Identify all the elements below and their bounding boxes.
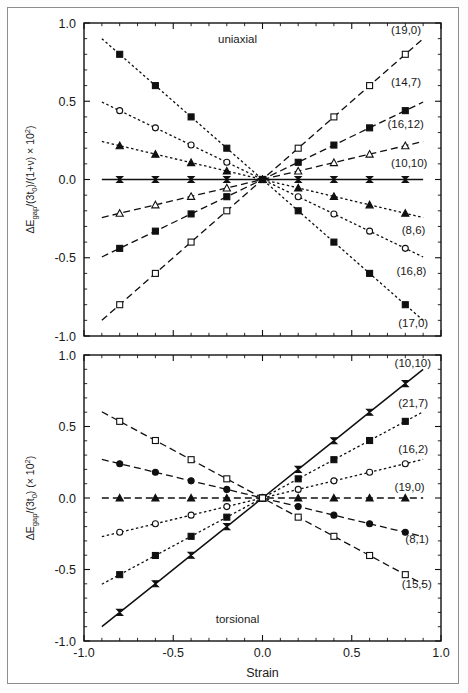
figure-root: (19,0)(14,7)(16,12)(10,10)(8,6)(16,8)(17… — [0, 0, 468, 693]
marker-bowtie — [367, 409, 373, 415]
series-label-(21,7): (21,7) — [398, 397, 428, 409]
marker-open-square — [188, 239, 194, 245]
marker-filled-square — [152, 83, 158, 89]
marker-bowtie — [224, 524, 230, 530]
marker-open-circle — [117, 108, 123, 114]
marker-open-square — [152, 438, 158, 444]
series-label-(17,0): (17,0) — [398, 317, 428, 329]
marker-filled-square — [367, 438, 373, 444]
marker-open-circle — [152, 125, 158, 131]
marker-open-square — [402, 572, 408, 578]
x-tick-label: -1.0 — [73, 646, 95, 660]
marker-open-square — [224, 208, 230, 214]
marker-open-square — [331, 533, 337, 539]
y-tick-label: 0.5 — [59, 420, 76, 434]
y-axis-title-part: /(3t — [24, 498, 36, 513]
marker-open-circle — [295, 194, 301, 200]
series-label-(10,10): (10,10) — [395, 357, 432, 369]
series-label-(15,5): (15,5) — [402, 578, 432, 590]
series-label-(8,1): (8,1) — [405, 533, 429, 545]
marker-bowtie — [402, 381, 408, 387]
marker-bowtie — [188, 552, 194, 558]
marker-filled-square — [117, 572, 123, 578]
marker-bowtie — [117, 609, 123, 615]
marker-filled-square — [367, 125, 373, 131]
y-axis-title-part: )/(1+ν) × 10 — [24, 133, 36, 187]
y-axis-title-part: gap — [30, 207, 39, 220]
marker-open-circle — [331, 478, 337, 484]
marker-filled-square — [188, 114, 194, 120]
marker-filled-square — [117, 51, 123, 57]
y-tick-label: 1.0 — [59, 17, 76, 31]
marker-open-circle — [295, 486, 301, 492]
y-axis-title: ΔEgap/(3t0)/(1+ν) × 102) — [23, 125, 39, 233]
y-tick-label: 0.5 — [59, 95, 76, 109]
marker-open-square — [295, 145, 301, 151]
y-axis-title-part: ΔE — [24, 220, 36, 234]
marker-filled-square — [331, 457, 337, 463]
marker-filled-circle — [367, 521, 373, 527]
marker-filled-circle — [331, 512, 337, 518]
marker-filled-circle — [224, 486, 230, 492]
marker-filled-square — [295, 476, 301, 482]
marker-open-square — [224, 476, 230, 482]
y-axis-title: ΔEgap/(3t0) (× 102) — [23, 456, 39, 540]
y-axis-title-part: /(3t — [24, 192, 36, 207]
marker-open-square — [117, 418, 123, 424]
marker-filled-square — [224, 194, 230, 200]
y-tick-label: 1.0 — [59, 349, 76, 363]
marker-open-triangle — [330, 159, 337, 166]
panel-annotation-bottom: torsional — [216, 613, 259, 625]
marker-filled-circle — [188, 478, 194, 484]
marker-filled-triangle — [188, 159, 195, 166]
series-label-(16,12): (16,12) — [387, 118, 424, 130]
y-axis-title-part: ) — [24, 125, 36, 129]
marker-open-circle — [331, 211, 337, 217]
x-tick-label: 1.0 — [432, 646, 449, 660]
marker-bowtie — [152, 581, 158, 587]
marker-bowtie — [295, 466, 301, 472]
marker-open-circle — [402, 245, 408, 251]
marker-filled-triangle — [366, 201, 373, 208]
y-axis-title-part: gap — [30, 514, 39, 527]
marker-open-square — [331, 114, 337, 120]
marker-open-square — [367, 83, 373, 89]
marker-filled-square — [152, 228, 158, 234]
marker-filled-triangle — [152, 151, 159, 158]
marker-open-circle — [402, 461, 408, 467]
marker-filled-square — [152, 552, 158, 558]
marker-open-circle — [188, 142, 194, 148]
marker-open-circle — [367, 469, 373, 475]
marker-open-square — [367, 552, 373, 558]
y-axis-title-part: ) (× 10 — [24, 463, 36, 494]
x-tick-label: 0.5 — [343, 646, 360, 660]
marker-filled-square — [402, 302, 408, 308]
panel-annotation-top: uniaxial — [218, 33, 257, 45]
marker-open-square — [402, 51, 408, 57]
y-tick-label: 0.0 — [59, 492, 76, 506]
x-tick-label: 0.0 — [254, 646, 271, 660]
marker-filled-square — [188, 533, 194, 539]
series-label-(14,7): (14,7) — [391, 76, 421, 88]
y-tick-label: -0.5 — [54, 563, 76, 577]
marker-filled-triangle — [402, 210, 409, 217]
marker-filled-square — [295, 208, 301, 214]
series-label-(8,6): (8,6) — [402, 224, 426, 236]
panel-bottom: (10,10)(21,7)(16,2)(19,0)(8,1)(15,5)1.00… — [23, 349, 450, 681]
marker-open-circle — [188, 512, 194, 518]
marker-filled-square — [224, 514, 230, 520]
series-label-(19,0): (19,0) — [391, 24, 421, 36]
marker-filled-triangle — [295, 184, 302, 191]
marker-open-circle — [224, 159, 230, 165]
marker-filled-square — [402, 418, 408, 424]
marker-filled-square — [260, 177, 266, 183]
y-axis-title-part: ) — [24, 456, 36, 460]
marker-filled-square — [224, 145, 230, 151]
series-label-(10,10): (10,10) — [391, 157, 428, 169]
marker-filled-circle — [117, 461, 123, 467]
x-tick-label: -0.5 — [162, 646, 184, 660]
marker-filled-square — [188, 211, 194, 217]
marker-open-triangle — [223, 184, 230, 191]
marker-filled-square — [331, 142, 337, 148]
marker-open-triangle — [116, 210, 123, 217]
